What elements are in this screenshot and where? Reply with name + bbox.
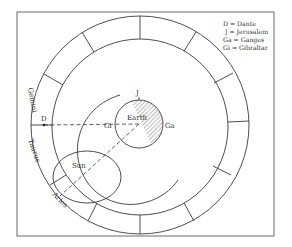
zodiac-inner-circle bbox=[52, 39, 228, 215]
label-earth: Earth bbox=[127, 114, 147, 122]
label-ganges: Ga bbox=[165, 122, 175, 130]
earth bbox=[115, 97, 170, 160]
label-dante: D bbox=[41, 115, 47, 123]
dante-cosmology-diagram: D J Earth Ga Gi Sun Gemini Taurus Aries … bbox=[0, 0, 292, 247]
legend: D = Dante J = Jerusalem Ga = Ganges Gi =… bbox=[223, 20, 268, 51]
label-taurus: Taurus bbox=[26, 138, 42, 164]
label-sun: Sun bbox=[72, 162, 86, 170]
legend-gibraltar: Gi = Gibraltar bbox=[223, 44, 268, 51]
dante-point bbox=[43, 124, 46, 127]
legend-dante: D = Dante bbox=[223, 20, 256, 27]
label-jerusalem: J bbox=[135, 89, 139, 97]
legend-ganges: Ga = Ganges bbox=[223, 36, 264, 44]
sun-orbit-arc bbox=[77, 95, 178, 204]
dante-sight-line bbox=[44, 124, 139, 125]
label-gibraltar: Gi bbox=[104, 122, 113, 130]
label-aries: Aries bbox=[50, 190, 70, 210]
sun-line bbox=[60, 124, 139, 196]
legend-jerusalem: J = Jerusalem bbox=[224, 28, 268, 36]
